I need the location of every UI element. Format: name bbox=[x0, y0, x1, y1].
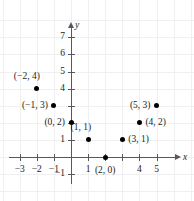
x-axis-arrow bbox=[175, 154, 181, 160]
y-axis-tick bbox=[68, 37, 75, 38]
x-axis-tick bbox=[37, 154, 38, 161]
x-axis-tick bbox=[139, 154, 140, 161]
x-axis-name: x bbox=[183, 153, 187, 163]
gridline-horizontal bbox=[0, 140, 194, 141]
y-axis-tick-label: 5 bbox=[51, 67, 65, 77]
data-point-label: (3, 1) bbox=[128, 135, 149, 145]
y-axis-tick-label: 1 bbox=[51, 135, 65, 145]
gridline-horizontal bbox=[0, 20, 194, 21]
gridline-horizontal bbox=[0, 191, 194, 192]
data-point-label: (−2, 4) bbox=[14, 72, 40, 82]
x-axis-tick bbox=[20, 154, 21, 161]
data-point bbox=[154, 103, 159, 108]
x-axis-tick bbox=[54, 154, 55, 161]
y-axis-tick bbox=[68, 72, 75, 73]
y-axis-name: y bbox=[75, 21, 79, 31]
coordinate-plane-chart: −3−2−114514567−1xy(−2, 4)(−1, 3)(0, 2)(1… bbox=[0, 0, 194, 201]
x-axis-tick-label: 4 bbox=[133, 165, 145, 175]
y-axis-tick-label: −1 bbox=[51, 169, 65, 179]
x-axis-tick bbox=[88, 154, 89, 161]
data-point bbox=[120, 137, 125, 142]
gridline-horizontal bbox=[0, 89, 194, 90]
data-point-label: (2, 0) bbox=[95, 166, 116, 176]
data-point-label: (1, 1) bbox=[71, 123, 92, 133]
gridline-vertical bbox=[3, 0, 4, 201]
y-axis bbox=[71, 24, 72, 185]
y-axis-tick-label: 7 bbox=[51, 32, 65, 42]
data-point-label: (5, 3) bbox=[130, 101, 151, 111]
data-point-label: (0, 2) bbox=[44, 118, 65, 128]
x-axis-tick-label: 5 bbox=[151, 165, 163, 175]
data-point bbox=[137, 120, 142, 125]
y-axis-tick bbox=[68, 106, 75, 107]
x-axis-tick bbox=[122, 154, 123, 161]
gridline-vertical bbox=[174, 0, 175, 201]
gridline-vertical bbox=[191, 0, 192, 201]
y-axis-tick-label: 6 bbox=[51, 49, 65, 59]
gridline-vertical bbox=[122, 0, 123, 201]
y-axis-tick bbox=[68, 54, 75, 55]
x-axis-tick-label: −3 bbox=[14, 165, 26, 175]
x-axis-tick-label: −2 bbox=[31, 165, 43, 175]
data-point-label: (−1, 3) bbox=[22, 101, 48, 111]
data-point bbox=[103, 155, 108, 160]
data-point bbox=[34, 86, 39, 91]
x-axis-tick-label: 1 bbox=[82, 165, 94, 175]
data-point bbox=[51, 103, 56, 108]
gridline-horizontal bbox=[0, 37, 194, 38]
y-axis-tick bbox=[68, 89, 75, 90]
y-axis-tick bbox=[68, 140, 75, 141]
y-axis-tick bbox=[68, 174, 75, 175]
y-axis-arrow bbox=[68, 22, 74, 28]
data-point bbox=[86, 137, 91, 142]
x-axis-tick bbox=[157, 154, 158, 161]
x-axis bbox=[9, 157, 177, 158]
gridline-horizontal bbox=[0, 54, 194, 55]
data-point-label: (4, 2) bbox=[145, 118, 166, 128]
y-axis-tick-label: 4 bbox=[51, 84, 65, 94]
